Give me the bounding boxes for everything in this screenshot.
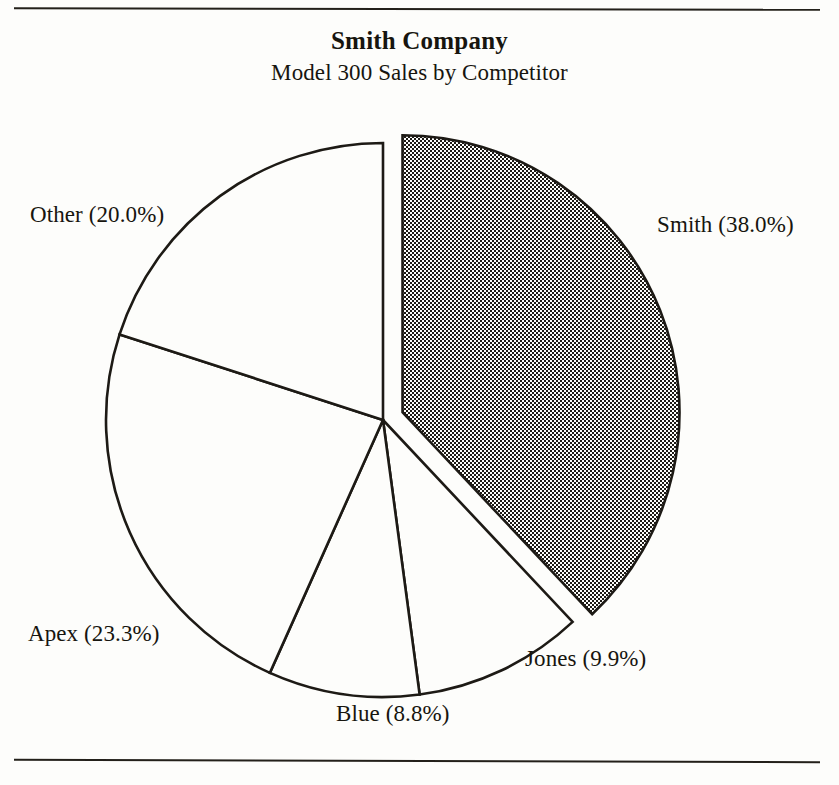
pie-svg — [0, 0, 839, 785]
pie-slices-group — [106, 135, 680, 697]
slice-label-other: Other (20.0%) — [30, 202, 164, 228]
slice-label-jones: Jones (9.9%) — [525, 646, 646, 672]
slice-label-apex: Apex (23.3%) — [28, 621, 160, 647]
slice-label-smith: Smith (38.0%) — [657, 212, 794, 238]
pie-chart-figure: Smith Company Model 300 Sales by Competi… — [0, 0, 839, 785]
slice-label-blue: Blue (8.8%) — [336, 701, 450, 727]
